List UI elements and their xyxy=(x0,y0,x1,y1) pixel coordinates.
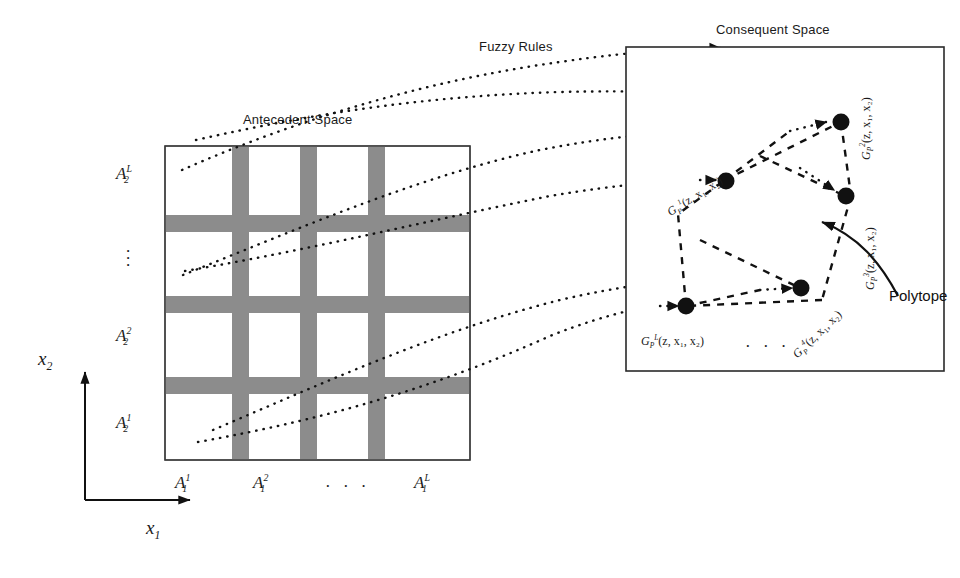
label-sup: 3 xyxy=(862,273,871,277)
label-sub: 1 xyxy=(422,483,427,494)
antecedent-y-label-1: A12 xyxy=(116,412,128,434)
label-sub: P xyxy=(866,147,875,152)
label-sub: P xyxy=(650,341,655,350)
label-sup: 1 xyxy=(185,472,190,483)
antecedent-y-ellipsis: ... xyxy=(126,243,130,264)
label-sub: 2 xyxy=(124,174,129,185)
label-sup: L xyxy=(126,163,131,174)
label-base: G xyxy=(641,334,650,348)
antecedent-y-label-L: AL2 xyxy=(116,163,129,185)
label-sup: L xyxy=(424,472,429,483)
axis-label-x1: x1 xyxy=(146,517,160,543)
consequent-label-G2: GP2(z, x₁, x₂) xyxy=(858,97,875,160)
antecedent-x-label-2: A21 xyxy=(253,472,265,494)
vertex-dot xyxy=(838,188,855,205)
label-sub: 1 xyxy=(182,483,187,494)
label-sup: 2 xyxy=(858,143,867,147)
diagram-vector-layer xyxy=(0,0,960,578)
consequent-bottom-ellipsis: · · · xyxy=(745,337,790,357)
label-sub: 2 xyxy=(123,336,128,347)
axis-sub: 1 xyxy=(154,529,160,542)
consequent-space-title: Consequent Space xyxy=(716,22,830,37)
label-base: G xyxy=(863,281,877,290)
antecedent-space-box xyxy=(165,146,470,460)
fuzzy-rules-title: Fuzzy Rules xyxy=(479,39,553,54)
label-args: (z, x₁, x₂) xyxy=(863,227,877,273)
consequent-label-GL: GPL(z, x₁, x₂) xyxy=(641,333,704,350)
consequent-label-G3: GP3(z, x₁, x₂) xyxy=(862,227,879,290)
antecedent-space-title: Antecedent Space xyxy=(243,112,352,127)
label-sub: P xyxy=(870,277,879,282)
label-sup: 1 xyxy=(126,412,131,423)
vertex-dot xyxy=(678,298,695,315)
label-sup: 2 xyxy=(263,472,268,483)
label-sub: 2 xyxy=(123,423,128,434)
antecedent-x-ellipsis: · · · xyxy=(325,477,370,497)
figure-canvas: Fuzzy Rules Antecedent Space Consequent … xyxy=(0,0,960,578)
axis-sub: 2 xyxy=(46,360,52,373)
antecedent-x-label-L: AL1 xyxy=(414,472,427,494)
axis-label-x2: x2 xyxy=(38,348,52,374)
vertex-dot xyxy=(793,280,810,297)
vertex-dot xyxy=(833,114,850,131)
antecedent-y-label-2: A22 xyxy=(116,325,128,347)
label-base: G xyxy=(859,151,873,160)
antecedent-x-label-1: A11 xyxy=(175,472,187,494)
label-sup: 2 xyxy=(126,325,131,336)
label-args: (z, x₁, x₂) xyxy=(859,97,873,143)
polytope-annotation-label: Polytope xyxy=(889,287,947,304)
label-args: (z, x₁, x₂) xyxy=(658,334,704,348)
label-sub: 1 xyxy=(260,483,265,494)
